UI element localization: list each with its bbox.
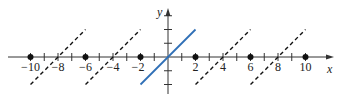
x-tick-label-p8: 8 — [275, 60, 281, 74]
x-tick-label-m10: −10 — [21, 60, 40, 74]
point-p6 — [248, 54, 254, 60]
point-m6 — [83, 54, 89, 60]
graph: x y −10 −8 −6 −4 −2 2 4 — [0, 0, 342, 98]
point-p10 — [303, 54, 309, 60]
x-tick-label-p4: 4 — [220, 60, 226, 74]
x-axis-arrow-icon — [326, 55, 334, 60]
x-tick-label-m8: −8 — [52, 60, 65, 74]
x-tick-label-p2: 2 — [193, 60, 199, 74]
x-tick-label-p6: 6 — [248, 60, 254, 74]
point-m2 — [138, 54, 144, 60]
x-tick-label-m4: −4 — [107, 60, 120, 74]
y-axis-arrow-icon — [166, 8, 171, 16]
point-p2 — [193, 54, 199, 60]
y-axis-label: y — [156, 5, 163, 19]
x-tick-label-p10: 10 — [300, 60, 312, 74]
x-axis-label: x — [326, 62, 333, 76]
x-tick-label-m2: −2 — [132, 60, 145, 74]
point-m10 — [28, 54, 34, 60]
x-tick-label-m6: −6 — [79, 60, 92, 74]
